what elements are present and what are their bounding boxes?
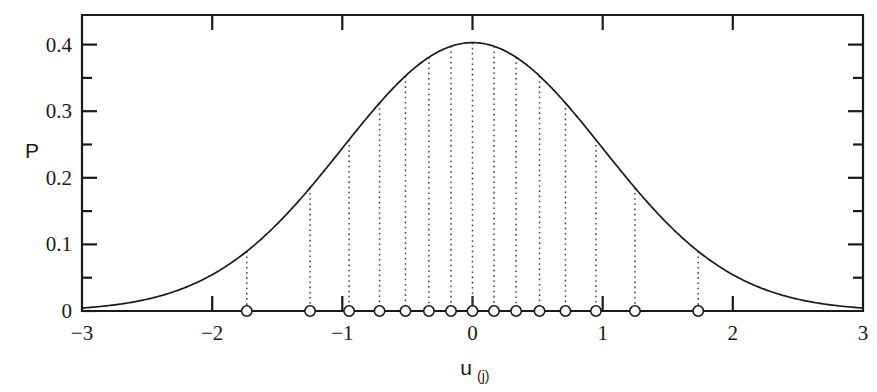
x-tick-label-1: 1 [597, 321, 608, 345]
x-tick-label-minus1: −1 [331, 321, 353, 345]
y-axis-title: P [25, 139, 39, 162]
x-tick-labels: −3 −2 −1 0 1 2 3 [71, 321, 868, 345]
quantile-marker [489, 306, 499, 316]
y-tick-label-0-3: 0.3 [46, 99, 72, 123]
quantile-marker [467, 306, 477, 316]
y-axis-right-ticks [848, 45, 863, 278]
quantile-marker [630, 306, 640, 316]
quantile-marker [511, 306, 521, 316]
y-tick-labels: 0 0.1 0.2 0.3 0.4 [46, 33, 73, 323]
y-tick-label-0-2: 0.2 [46, 166, 72, 190]
x-tick-label-2: 2 [728, 321, 739, 345]
quantile-markers-group [242, 306, 704, 316]
quantile-marker [693, 306, 703, 316]
x-tick-label-minus3: −3 [71, 321, 93, 345]
quantile-marker [242, 306, 252, 316]
x-axis-title-subscript: (j) [477, 368, 489, 384]
x-axis-title-group: u (j) [460, 356, 489, 384]
y-tick-label-0-4: 0.4 [46, 33, 73, 57]
x-tick-label-3: 3 [858, 321, 869, 345]
quantile-marker [374, 306, 384, 316]
normal-density-curve [82, 43, 863, 308]
x-tick-label-0: 0 [467, 321, 478, 345]
quantile-marker [305, 306, 315, 316]
quantile-marker [400, 306, 410, 316]
quantile-marker [591, 306, 601, 316]
x-tick-label-minus2: −2 [201, 321, 223, 345]
figure-container: 0 0.1 0.2 0.3 0.4 −3 −2 −1 0 1 2 3 P u (… [0, 0, 877, 392]
quantile-marker [344, 306, 354, 316]
droplines-group [247, 43, 698, 311]
y-tick-label-0-1: 0.1 [46, 232, 72, 256]
quantile-marker [446, 306, 456, 316]
quantile-marker [534, 306, 544, 316]
x-axis-title: u [460, 356, 472, 379]
y-tick-label-0: 0 [62, 299, 73, 323]
normal-density-quantile-chart: 0 0.1 0.2 0.3 0.4 −3 −2 −1 0 1 2 3 P u (… [0, 0, 877, 392]
quantile-marker [424, 306, 434, 316]
y-axis-major-ticks [82, 45, 97, 311]
x-axis-top-ticks [212, 15, 733, 30]
quantile-marker [560, 306, 570, 316]
